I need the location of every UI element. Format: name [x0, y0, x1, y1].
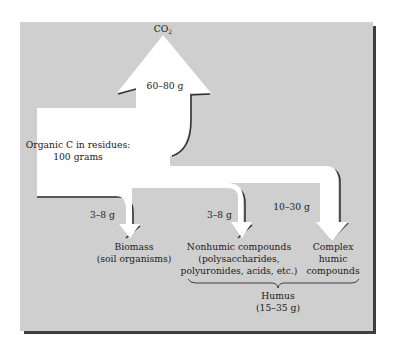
nonhumic-label-line3: polyuronides, acids, etc.)	[181, 265, 298, 276]
biomass-amount: 3–8 g	[90, 209, 115, 220]
co2-amount: 60–80 g	[147, 80, 184, 91]
carbon-flow-diagram: CO2 60–80 g Organic C in residues: 100 g…	[0, 0, 395, 354]
humic-label-line2: humic	[319, 253, 348, 264]
humic-label-line3: compounds	[306, 265, 360, 276]
humus-label-line1: Humus	[261, 290, 295, 301]
biomass-label-line2: (soil organisms)	[97, 253, 172, 264]
biomass-label-line1: Biomass	[115, 241, 154, 252]
humic-amount: 10–30 g	[273, 201, 310, 212]
nonhumic-label-line1: Nonhumic compounds	[187, 241, 292, 252]
humic-label-line1: Complex	[313, 241, 355, 252]
source-label-line1: Organic C in residues:	[26, 139, 130, 150]
source-label-line2: 100 grams	[53, 151, 103, 162]
nonhumic-amount: 3–8 g	[207, 209, 232, 220]
nonhumic-label-line2: (polysaccharides,	[198, 253, 279, 264]
humus-label-line2: (15–35 g)	[256, 302, 300, 313]
